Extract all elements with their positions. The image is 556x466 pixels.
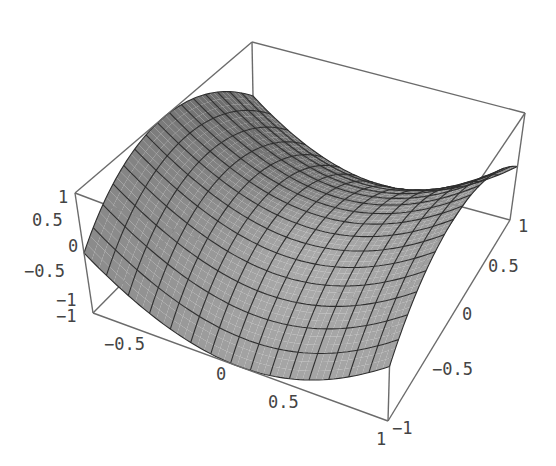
x-tick-label: 0.5	[268, 392, 299, 412]
x-tick-label: −1	[56, 306, 76, 326]
y-tick-label: −1	[392, 418, 412, 438]
saddle-surface	[84, 92, 518, 380]
x-tick-label: −0.5	[104, 334, 145, 354]
z-tick-label: −0.5	[24, 261, 65, 281]
surface-plot-3d: 10.50−0.5−1 −1−0.500.51 −1−0.500.51	[0, 0, 556, 466]
z-tick-label: 1	[58, 187, 68, 207]
x-tick-label: 1	[376, 429, 386, 449]
z-tick-label: 0	[68, 236, 78, 256]
z-axis-tick-labels: 10.50−0.5−1	[24, 187, 78, 310]
box-edge	[252, 42, 525, 113]
y-tick-label: 1	[518, 216, 528, 236]
y-tick-label: 0	[462, 304, 472, 324]
x-tick-label: 0	[216, 364, 226, 384]
y-tick-label: 0.5	[488, 256, 519, 276]
z-tick-label: 0.5	[32, 210, 63, 230]
y-tick-label: −0.5	[432, 359, 473, 379]
